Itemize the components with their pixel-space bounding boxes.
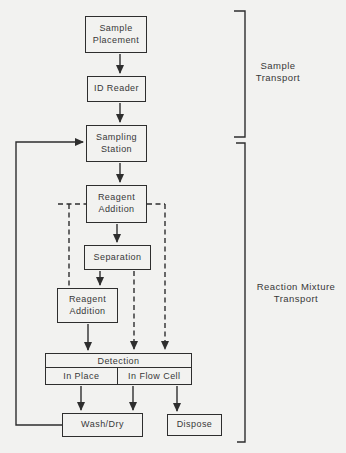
node-sample-placement: Sample Placement — [85, 16, 147, 53]
node-sampling-station: Sampling Station — [86, 125, 147, 162]
label-line: Sample — [250, 60, 306, 72]
label-line: Reaction Mixture — [252, 281, 340, 293]
detection-cell-in-place: In Place — [46, 368, 117, 384]
node-reagent-addition-2: Reagent Addition — [57, 288, 118, 323]
detection-cell-in-flow-cell: In Flow Cell — [117, 368, 191, 384]
label-line: Transport — [250, 72, 306, 84]
label-line: Transport — [252, 293, 340, 305]
label-sample-transport: Sample Transport — [250, 60, 306, 84]
flowchart-diagram: Sample Placement ID Reader Sampling Stat… — [0, 0, 346, 453]
bracket-sample-transport — [234, 11, 245, 137]
node-wash-dry: Wash/Dry — [62, 413, 143, 437]
node-id-reader: ID Reader — [87, 76, 146, 102]
bracket-reaction-mixture-transport — [236, 143, 245, 442]
node-detection: Detection In Place In Flow Cell — [45, 353, 192, 385]
node-reagent-addition-1: Reagent Addition — [86, 185, 147, 223]
detection-row: In Place In Flow Cell — [46, 368, 191, 384]
node-dispose: Dispose — [167, 414, 222, 436]
node-separation: Separation — [84, 245, 151, 270]
label-reaction-mixture-transport: Reaction Mixture Transport — [252, 281, 340, 305]
detection-header: Detection — [46, 354, 191, 368]
